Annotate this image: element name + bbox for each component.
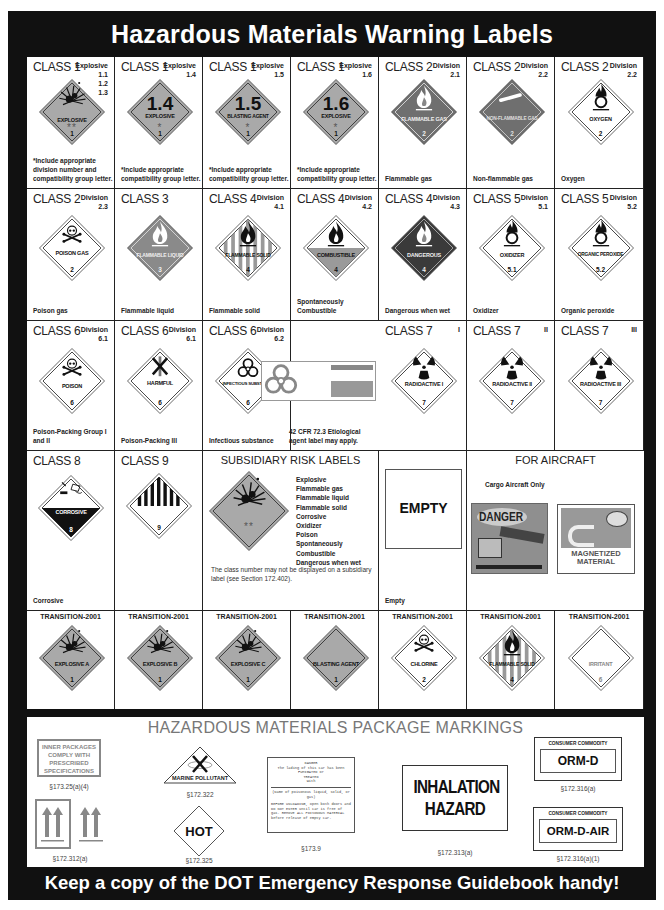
division-number-large: 1.4: [127, 93, 193, 115]
diamond-label: RADIOACTIVE III: [568, 381, 634, 387]
class-number: 1: [39, 676, 105, 683]
transition-cell: TRANSITION-2001 EXPLOSIVE B1: [115, 611, 203, 709]
diamond-label: ORGANIC PEROXIDE: [568, 252, 634, 257]
division-label: I: [458, 325, 460, 334]
poster-frame: Hazardous Materials Warning Labels CLASS…: [8, 11, 656, 900]
compatibility-marks: **: [209, 521, 289, 532]
class-number: 2: [391, 676, 457, 683]
subsidiary-risk-cell: SUBSIDIARY RISK LABELS **ExplosiveFlamma…: [203, 451, 379, 611]
label-cell: CLASS 4Division 4.3 DANGEROUS4Dangerous …: [379, 189, 467, 321]
cell-caption: *Include appropriate compatibility group…: [121, 165, 203, 183]
class-title: CLASS 4: [385, 192, 432, 206]
class-title: CLASS 7: [561, 324, 608, 338]
footer-banner: Keep a copy of the DOT Emergency Respons…: [8, 867, 656, 900]
magnetized-material-label: MAGNETIZED MATERIAL: [557, 504, 635, 574]
inner-packages-ref: §173.25(a)(4): [37, 783, 101, 790]
transition-title: TRANSITION-2001: [203, 613, 290, 620]
division-label: Division 6.2: [257, 325, 284, 343]
class-title: CLASS 2: [385, 60, 432, 74]
class-number: 7: [391, 399, 457, 406]
marine-pollutant-label: MARINE POLLUTANT: [172, 775, 229, 781]
cell-caption: Flammable liquid: [121, 306, 203, 315]
subsidiary-list-item: Explosive: [296, 475, 378, 484]
etiologic-agent-label: [261, 361, 376, 401]
diamond-label: RADIOACTIVE I: [391, 381, 457, 387]
class-number: 6: [568, 676, 634, 683]
diamond-label: FLAMMABLE SOLID: [479, 661, 545, 667]
division-label: Division 4.2: [345, 193, 372, 211]
division-label: III: [631, 325, 637, 334]
hazard-diamond: FLAMMABLE SOLID4: [479, 625, 545, 691]
division-label: Division 2.1: [433, 61, 460, 79]
cell-caption: Oxidizer: [473, 306, 555, 315]
cell-caption: Flammable solid: [209, 306, 291, 315]
hazard-diamond: EXPLOSIVE1.4*1: [127, 79, 193, 145]
class-number: 6: [127, 399, 193, 406]
cell-caption: Poison-Packing Group I and II: [33, 427, 115, 445]
division-label: Division 5.2: [610, 193, 637, 211]
class-number: 1: [127, 676, 193, 683]
label-cell: CLASS 4Division 4.2 COMBUSTIBLE4Spontane…: [291, 189, 379, 321]
division-label: Explosive 1.6: [339, 61, 372, 79]
diamond-label: COMBUSTIBLE: [303, 252, 369, 258]
inhalation-hazard-ref: §172.313(a): [402, 849, 508, 856]
division-label: II: [544, 325, 548, 334]
hot-label: HOT: [185, 824, 213, 839]
subsidiary-list-item: Spontaneously Combustible: [296, 539, 378, 557]
page-title: Hazardous Materials Warning Labels: [8, 11, 656, 55]
hazard-diamond: FLAMMABLE LIQUID3: [127, 215, 193, 281]
marine-pollutant-ref: §172.322: [162, 791, 238, 798]
transition-title: TRANSITION-2001: [291, 613, 378, 620]
hazard-diamond: BLASTING AGENT1: [303, 625, 369, 691]
class-title: CLASS 4: [209, 192, 256, 206]
label-cell: CLASS 4Division 4.1 FLAMMABLE SOLID4Flam…: [203, 189, 291, 321]
cell-caption: Oxygen: [561, 174, 644, 183]
subsidiary-list-item: Flammable liquid: [296, 493, 378, 502]
arrows-ref: §172.312(a): [35, 855, 105, 862]
class-number: 1: [39, 130, 105, 137]
cell-caption: *Include appropriate division number and…: [33, 156, 115, 183]
label-cell: CLASS 7III RADIOACTIVE III7: [555, 321, 644, 451]
diamond-label: CHLORINE: [391, 661, 457, 667]
label-cell: CLASS 1Explosive 1.6EXPLOSIVE1.6*1*Inclu…: [291, 57, 379, 189]
division-label: Explosive 1.4: [163, 61, 196, 79]
hazard-diamond: NON-FLAMMABLE GAS2: [479, 79, 545, 145]
aircraft-title: FOR AIRCRAFT: [467, 454, 644, 466]
hazard-diamond: POISON GAS2: [39, 215, 105, 281]
class-number: 1: [303, 130, 369, 137]
label-cell: CLASS 6Division 6.1 POISON6Poison-Packin…: [27, 321, 115, 451]
cell-caption: Organic peroxide: [561, 306, 644, 315]
diamond-label: EXPLOSIVE C: [215, 661, 281, 667]
class-title: CLASS 2: [473, 60, 520, 74]
transition-title: TRANSITION-2001: [27, 613, 114, 620]
division-number-large: 1.6: [303, 93, 369, 115]
label-cell: CLASS 99: [115, 451, 203, 611]
division-label: Division 5.1: [521, 193, 548, 211]
subsidiary-title: SUBSIDIARY RISK LABELS: [203, 454, 378, 466]
up-arrows-icon: [77, 803, 105, 847]
fumigated-ref: §173.9: [267, 845, 355, 852]
cell-caption: Infectious substance: [209, 436, 291, 445]
label-cell: CLASS 1Explosive 1.5BLASTING AGENT1.5*1*…: [203, 57, 291, 189]
label-cell: CLASS 6Division 6.1 HARMFUL6Poison-Packi…: [115, 321, 203, 451]
division-label: Division 4.1: [257, 193, 284, 211]
empty-label: EMPTY: [385, 469, 462, 549]
transition-title: TRANSITION-2001: [379, 613, 466, 620]
labels-grid: CLASS 1Explosive 1.1 1.2 1.3 EXPLOSIVE**…: [27, 57, 644, 709]
division-label: Division 6.1: [169, 325, 196, 343]
class-title: CLASS 2: [561, 60, 608, 74]
label-cell: CLASS 5Division 5.1 OXIDIZER5.1Oxidizer: [467, 189, 555, 321]
class-number: 2: [391, 130, 457, 137]
class-title: CLASS 5: [473, 192, 520, 206]
class-number: 4: [303, 266, 369, 273]
orm-d-marking: CONSUMER COMMODITY ORM-D: [534, 737, 622, 781]
label-cell: CLASS 1Explosive 1.4EXPLOSIVE1.4*1*Inclu…: [115, 57, 203, 189]
class-number: 4: [479, 676, 545, 683]
class-title: CLASS 6: [209, 324, 256, 338]
cell-caption: Empty: [385, 596, 467, 605]
hazard-diamond: RADIOACTIVE I7: [391, 348, 457, 414]
subsidiary-diamond: **: [209, 471, 289, 551]
hazard-diamond: COMBUSTIBLE4: [303, 215, 369, 281]
label-cell: CLASS 2Division 2.2 OXYGEN2Oxygen: [555, 57, 644, 189]
hazard-diamond: EXPLOSIVE**1: [39, 79, 105, 145]
